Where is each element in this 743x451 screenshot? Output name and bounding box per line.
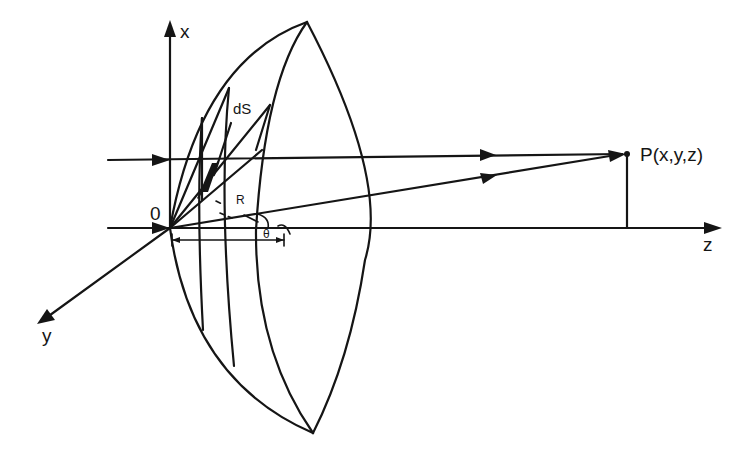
x-axis-arrow-icon [164,20,176,37]
ray-arrow-icon [480,149,496,161]
ray-arrow-icon [608,150,626,162]
y-axis [37,228,170,324]
z-axis-label: z [703,234,713,255]
x-axis-label: x [180,21,190,42]
origin-label: 0 [150,203,161,224]
diagram-canvas: x z y 0 dS [0,0,743,451]
z-axis-arrow-icon [704,222,722,234]
angle-label: θ [263,227,270,241]
point-p [624,151,630,228]
y-axis-arrow-icon [37,309,55,324]
point-p-label: P(x,y,z) [640,144,703,165]
radius-label: R [236,193,245,207]
x-axis [164,20,176,228]
radial-ray [170,150,626,228]
y-axis-label: y [42,325,52,346]
ray-arrow-icon [152,154,170,166]
ds-label: dS [233,100,251,117]
